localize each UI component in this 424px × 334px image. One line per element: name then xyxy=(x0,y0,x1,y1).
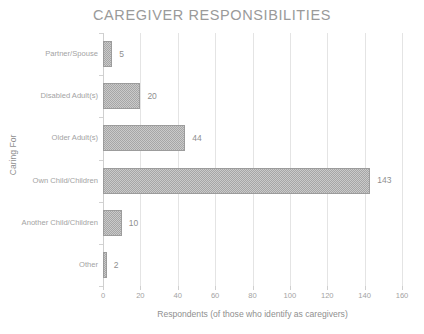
x-axis-tick xyxy=(365,286,366,290)
x-axis-tick-label: 20 xyxy=(136,292,144,300)
gridline-160 xyxy=(402,33,403,286)
bar[interactable] xyxy=(103,168,370,194)
category-label: Another Child/Children xyxy=(22,219,98,227)
bar[interactable] xyxy=(103,252,107,278)
gridline-100 xyxy=(290,33,291,286)
gridline-40 xyxy=(178,33,179,286)
y-axis-tick xyxy=(99,160,103,161)
x-axis-tick xyxy=(215,286,216,290)
bar-row[interactable]: 44 xyxy=(103,125,402,151)
x-axis-tick-label: 80 xyxy=(248,292,256,300)
x-axis-tick-label: 100 xyxy=(284,292,297,300)
category-label: Older Adult(s) xyxy=(52,134,98,142)
gridline-20 xyxy=(140,33,141,286)
bar-value-label: 44 xyxy=(192,134,201,143)
x-axis-tick-label: 0 xyxy=(101,292,105,300)
y-axis-tick xyxy=(99,33,103,34)
x-axis-tick-label: 40 xyxy=(174,292,182,300)
bar-row[interactable]: 2 xyxy=(103,252,402,278)
y-axis-tick xyxy=(99,75,103,76)
gridline-60 xyxy=(215,33,216,286)
x-axis-tick xyxy=(402,286,403,290)
bar-row[interactable]: 10 xyxy=(103,210,402,236)
bar-row[interactable]: 5 xyxy=(103,41,402,67)
chart-title: CAREGIVER RESPONSIBILITIES xyxy=(0,7,424,23)
bar-chart: CAREGIVER RESPONSIBILITIES Caring For Re… xyxy=(0,0,424,334)
bar[interactable] xyxy=(103,83,140,109)
gridline-0 xyxy=(103,33,104,286)
x-axis-tick xyxy=(140,286,141,290)
y-axis-tick xyxy=(99,244,103,245)
bar[interactable] xyxy=(103,41,112,67)
x-axis-tick-label: 60 xyxy=(211,292,219,300)
y-axis-title: Caring For xyxy=(8,115,18,195)
bar-value-label: 143 xyxy=(377,176,391,185)
x-axis-tick xyxy=(103,286,104,290)
gridline-140 xyxy=(365,33,366,286)
bar-value-label: 5 xyxy=(119,50,124,59)
x-axis-tick xyxy=(253,286,254,290)
x-axis-tick-label: 160 xyxy=(396,292,409,300)
x-axis-tick xyxy=(327,286,328,290)
gridline-80 xyxy=(253,33,254,286)
bar-row[interactable]: 143 xyxy=(103,168,402,194)
category-label: Partner/Spouse xyxy=(45,50,98,58)
y-axis-tick xyxy=(99,202,103,203)
x-axis-tick xyxy=(290,286,291,290)
y-axis-tick xyxy=(99,117,103,118)
bar[interactable] xyxy=(103,210,122,236)
x-axis-tick-label: 120 xyxy=(321,292,334,300)
gridline-120 xyxy=(327,33,328,286)
x-axis-title: Respondents (of those who identify as ca… xyxy=(103,309,402,319)
x-axis-tick-label: 140 xyxy=(358,292,371,300)
bar-value-label: 2 xyxy=(114,261,119,270)
bar-value-label: 10 xyxy=(129,219,138,228)
category-label: Other xyxy=(79,261,98,269)
bar-row[interactable]: 20 xyxy=(103,83,402,109)
category-label: Own Child/Children xyxy=(33,177,98,185)
bar[interactable] xyxy=(103,125,185,151)
x-axis-tick xyxy=(178,286,179,290)
bar-value-label: 20 xyxy=(147,92,156,101)
category-label: Disabled Adult(s) xyxy=(41,92,98,100)
plot-area: 52044143102 xyxy=(103,33,402,286)
